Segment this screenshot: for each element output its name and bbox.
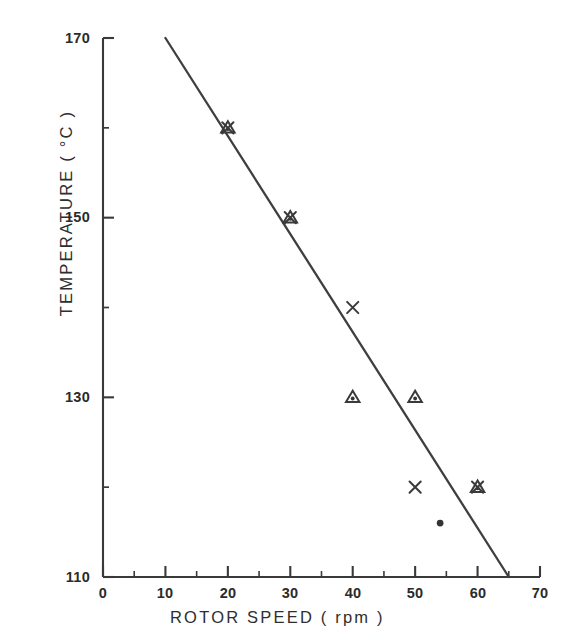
trend-line [165, 38, 508, 577]
data-point [408, 391, 421, 402]
series-filled-circle [437, 520, 444, 527]
data-markers [221, 121, 484, 526]
data-point [410, 482, 421, 493]
x-axis-ticks [103, 566, 540, 577]
x-cross-marker-icon [410, 482, 421, 493]
y-axis-ticks [103, 38, 114, 577]
scatter-chart-figure: TEMPERATURE ( °C ) ROTOR SPEED ( rpm ) 1… [0, 0, 570, 642]
plot-canvas [0, 0, 570, 642]
data-point [437, 520, 444, 527]
triangle-center-dot-icon [413, 397, 417, 401]
triangle-center-dot-icon [351, 397, 355, 401]
data-point [346, 391, 359, 402]
data-point [347, 302, 358, 313]
axes-group [103, 38, 540, 577]
fitted-trend-line [165, 38, 508, 577]
x-cross-marker-icon [347, 302, 358, 313]
series-cross [222, 122, 483, 493]
filled-circle-marker-icon [437, 520, 444, 527]
